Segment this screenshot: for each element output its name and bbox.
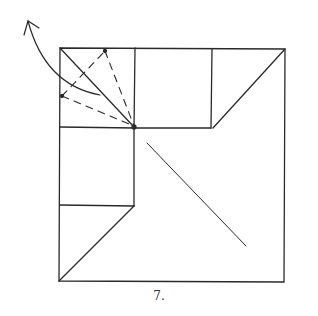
top-left-square-diagonal — [60, 48, 134, 127]
top-right-diagonal — [213, 49, 285, 128]
left-middle-square-bottom-edge — [60, 205, 134, 206]
diagonal-crease — [147, 143, 246, 246]
bottom-left-diagonal — [59, 206, 134, 281]
fold-point-top — [104, 50, 107, 53]
fold-point-corner — [132, 125, 136, 129]
fold-point-left — [61, 95, 64, 98]
dashed-fold-top — [105, 51, 134, 126]
top-left-square-bottom-edge — [60, 127, 135, 128]
top-middle-square-right-edge — [211, 49, 212, 128]
fold-arrow-icon — [28, 21, 100, 95]
step-label: 7. — [0, 289, 318, 303]
dashed-fold-left — [62, 96, 134, 126]
origami-diagram — [0, 0, 318, 316]
top-left-square-right-edge — [134, 48, 135, 128]
